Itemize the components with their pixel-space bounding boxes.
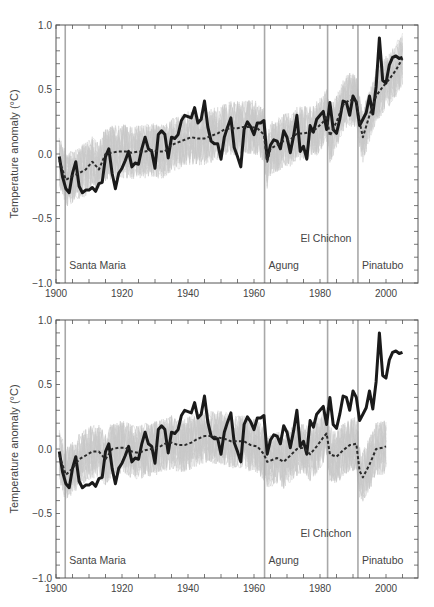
y-tick-label: −1.0 (32, 573, 52, 584)
x-tick-label: 1940 (177, 583, 200, 594)
x-tick-label: 1920 (111, 288, 134, 299)
volcano-label: Santa Maria (69, 259, 126, 271)
x-tick-label: 1900 (45, 583, 68, 594)
y-tick-label: 0.5 (38, 379, 52, 390)
volcano-label: Pinatubo (362, 259, 404, 271)
x-tick-label: 2000 (375, 288, 398, 299)
y-axis-title: Temperature anomaly (°C) (8, 384, 20, 513)
chart-panel-bottom: Santa MariaAgungEl ChichonPinatubo1.00.5… (8, 315, 418, 595)
volcano-label: El Chichon (301, 527, 352, 539)
y-tick-label: 1.0 (38, 315, 52, 326)
volcano-label: Agung (269, 259, 300, 271)
y-tick-label: 1.0 (38, 20, 52, 31)
temperature-anomaly-figure: Santa MariaAgungEl ChichonPinatubo1.00.5… (0, 0, 434, 607)
y-tick-label: 0.5 (38, 84, 52, 95)
x-tick-label: 1920 (111, 583, 134, 594)
y-tick-label: −0.5 (32, 508, 52, 519)
volcano-label: El Chichon (301, 232, 352, 244)
x-tick-label: 1980 (309, 288, 332, 299)
x-tick-label: 1960 (243, 288, 266, 299)
x-tick-label: 1980 (309, 583, 332, 594)
chart-panel-top: Santa MariaAgungEl ChichonPinatubo1.00.5… (8, 20, 418, 300)
y-tick-label: 0.0 (38, 444, 52, 455)
y-axis-title: Temperature anomaly (°C) (8, 89, 20, 218)
volcano-label: Santa Maria (69, 554, 126, 566)
x-tick-label: 2000 (375, 583, 398, 594)
y-tick-label: −1.0 (32, 278, 52, 289)
volcano-label: Agung (269, 554, 300, 566)
x-tick-label: 1940 (177, 288, 200, 299)
volcano-label: Pinatubo (362, 554, 404, 566)
x-tick-label: 1960 (243, 583, 266, 594)
y-tick-label: 0.0 (38, 149, 52, 160)
x-tick-label: 1900 (45, 288, 68, 299)
y-tick-label: −0.5 (32, 213, 52, 224)
